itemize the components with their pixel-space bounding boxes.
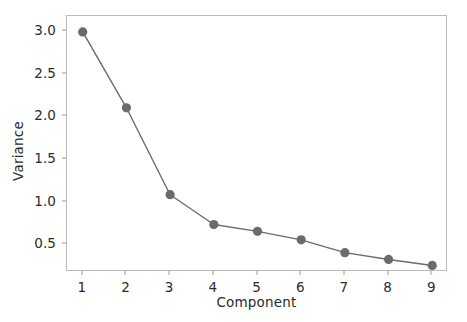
- x-tick-label: 7: [340, 279, 349, 295]
- x-tick-mark: [169, 271, 170, 275]
- data-point-marker: [384, 255, 393, 264]
- x-tick-mark: [343, 271, 344, 275]
- x-tick-mark: [256, 271, 257, 275]
- x-tick-mark: [212, 271, 213, 275]
- data-point-marker: [253, 227, 262, 236]
- x-tick-label: 2: [121, 279, 130, 295]
- x-tick-mark: [387, 271, 388, 275]
- data-layer: [67, 16, 448, 272]
- data-point-marker: [428, 261, 437, 270]
- x-tick-label: 1: [77, 279, 86, 295]
- data-point-marker: [166, 190, 175, 199]
- x-axis-title: Component: [66, 294, 447, 310]
- x-tick-mark: [300, 271, 301, 275]
- x-tick-mark: [431, 271, 432, 275]
- x-tick-label: 3: [165, 279, 174, 295]
- variance-markers: [78, 27, 437, 270]
- y-tick-label: 2.0: [34, 107, 56, 123]
- data-point-marker: [340, 248, 349, 257]
- data-point-marker: [122, 103, 131, 112]
- x-tick-label: 4: [209, 279, 218, 295]
- data-point-marker: [209, 220, 218, 229]
- y-tick-label: 0.5: [34, 235, 56, 251]
- x-tick-mark: [81, 271, 82, 275]
- y-tick-label: 2.5: [34, 65, 56, 81]
- x-tick-label: 6: [296, 279, 305, 295]
- x-tick-label: 5: [252, 279, 261, 295]
- plot-area: [66, 15, 447, 271]
- y-axis-title: Variance: [10, 96, 26, 206]
- data-point-marker: [297, 235, 306, 244]
- scree-plot-figure: 0.51.01.52.02.53.0 Variance 123456789 Co…: [0, 0, 467, 322]
- x-tick-label: 8: [383, 279, 392, 295]
- x-tick-mark: [125, 271, 126, 275]
- y-tick-label: 1.5: [34, 150, 56, 166]
- y-tick-label: 3.0: [34, 22, 56, 38]
- y-tick-label: 1.0: [34, 193, 56, 209]
- data-point-marker: [78, 27, 87, 36]
- x-tick-label: 9: [427, 279, 436, 295]
